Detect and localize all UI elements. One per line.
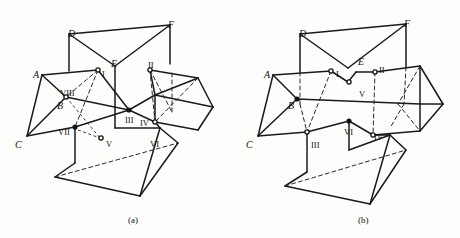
panel-b-node-1 [373, 70, 377, 74]
panel-b-solid-edge-24 [285, 172, 307, 186]
panel-b-hidden-edges [285, 66, 420, 186]
panel-a-solid-edge-1 [69, 34, 115, 66]
panel-b-node-2 [347, 80, 351, 84]
panel-a-solid-edge-13 [75, 110, 129, 127]
panel-a-face-label-VIII: VIII [60, 89, 75, 98]
panel-b-solid-edge-11 [307, 121, 349, 132]
panel-a-solid-edge-18 [150, 70, 198, 78]
panel-a-face-label-VI: VI [150, 140, 159, 149]
panel-b-solid-edge-2 [348, 24, 406, 68]
panel-b-solid-edge-18 [420, 66, 443, 104]
panel-a-vertex-label-E: E [111, 59, 117, 69]
panel-a-face-label-III: III [125, 116, 134, 125]
panel-b-face-label-V: V [359, 90, 365, 99]
panel-b-hidden-edge-6 [398, 66, 420, 104]
figure-root: ABCDEFIIIIIIIVVVIVIIVIIIABCDEFIIIIIIIVVV… [0, 0, 460, 238]
panel-b-edges [258, 24, 443, 204]
panel-a-face-label-II: II [148, 61, 154, 70]
panel-b-solid-edge-7 [258, 75, 273, 136]
panel-a-solid-edge-26 [55, 177, 140, 196]
panel-b-hidden-edge-2 [300, 104, 307, 132]
panel-b-face-label-II: II [379, 66, 385, 75]
panel-b-solid-edge-19 [420, 104, 443, 131]
panel-a-hidden-edge-5 [155, 78, 198, 122]
panel-b-hidden-edge-4 [404, 67, 406, 104]
panel-b-solid-edge-5 [273, 71, 331, 75]
panel-a-nodes [64, 68, 157, 140]
panel-b-hidden-edge-0 [307, 71, 331, 132]
panel-b-node-3 [305, 130, 309, 134]
panel-b-solid-edge-14 [331, 71, 348, 82]
panel-a-solid-edge-2 [115, 25, 170, 66]
panel-b-vertex-label-D: D [299, 29, 306, 39]
panel-b-solid-edge-10 [258, 132, 307, 136]
panel-a-vertex-label-C: C [15, 140, 22, 150]
panel-a-face-label-VII: VII [58, 128, 70, 137]
panel-a-node-4 [153, 120, 157, 124]
panel-b-face-label-VI: VI [344, 128, 353, 137]
panel-a-vertex-label-F: F [168, 20, 174, 30]
panel-b-face-label-IV: IV [374, 133, 383, 142]
panel-b-hidden-edge-8 [285, 150, 406, 186]
panel-b-caption: (b) [358, 216, 369, 225]
panel-a-node-0 [96, 68, 100, 72]
panel-a-face-label-IV: IV [140, 119, 149, 128]
panel-b-solid-edge-26 [370, 135, 390, 204]
panel-a-vertex-label-B: B [57, 101, 63, 111]
panel-a-node-6 [99, 136, 103, 140]
panel-a-solid-edge-25 [55, 163, 75, 177]
panel-b-solid-edge-25 [285, 186, 370, 204]
panel-a-hidden-edge-6 [55, 143, 178, 177]
panel-b-solid-edge-1 [300, 34, 348, 68]
panel-a-hidden-edge-1 [75, 70, 98, 127]
panel-a-solid-edge-30 [160, 128, 178, 143]
panel-b-hidden-edge-5 [390, 104, 404, 128]
panel-b-solid-edge-9 [297, 99, 420, 104]
panel-b-nodes [295, 69, 377, 137]
panel-a-edges [27, 25, 213, 196]
panel-a-node-2 [127, 108, 131, 112]
panel-b-hidden-edge-3 [373, 72, 375, 135]
panel-a-solid-edge-8 [27, 75, 42, 136]
panel-b-solid-edge-6 [273, 75, 297, 99]
panel-a-vertex-label-D: D [68, 29, 75, 39]
panel-a-leader-line-1 [78, 130, 100, 138]
panel-b-face-label-III: III [311, 141, 320, 150]
panel-a-caption: (a) [128, 216, 138, 225]
panel-b-vertex-label-C: C [246, 140, 253, 150]
panel-b-face-label-I: I [336, 70, 339, 79]
panel-a-face-label-V: V [106, 140, 112, 149]
panel-a-vertex-label-A: A [33, 70, 39, 80]
panel-b-solid-edge-0 [300, 24, 406, 34]
panel-a-solid-edge-14 [129, 95, 155, 110]
panel-b-node-5 [347, 119, 351, 123]
panel-a-solid-edge-19 [198, 78, 213, 107]
panel-b-vertex-label-E: E [358, 57, 364, 67]
panel-a-solid-edge-0 [69, 25, 170, 34]
panel-a-node-5 [73, 125, 77, 129]
panel-b-solid-edge-31 [349, 135, 390, 150]
panel-b-node-0 [329, 69, 333, 73]
panel-a-solid-edge-6 [42, 70, 98, 75]
panel-b-solid-edge-29 [390, 135, 406, 150]
panel-b-hidden-edge-7 [398, 104, 420, 131]
panel-b-vertex-label-A: A [264, 70, 270, 80]
panel-b-solid-edge-28 [370, 150, 406, 204]
panel-a-solid-edge-29 [140, 143, 178, 196]
panel-a-face-label-I: I [102, 70, 105, 79]
panel-a-solid-edge-20 [198, 107, 213, 130]
panel-b-node-6 [295, 97, 299, 101]
panel-b-vertex-label-B: B [288, 101, 294, 111]
panel-b-vertex-label-F: F [404, 19, 410, 29]
